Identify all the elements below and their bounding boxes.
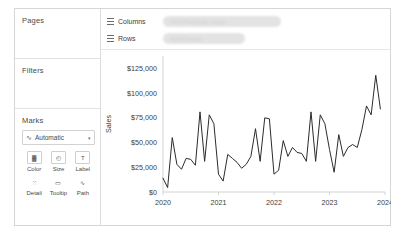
y-tick-label: $25,000	[131, 163, 157, 172]
marks-sidebar: Pages Filters Marks ∿ Automatic ▾ ▓ Colo…	[15, 9, 101, 225]
pages-shelf[interactable]: Pages	[15, 9, 100, 59]
grid-icon	[107, 35, 114, 42]
tooltip-icon: ▭	[52, 177, 65, 188]
y-axis-title: Sales	[104, 115, 113, 133]
path-icon: ∿	[76, 177, 89, 188]
x-tick-label: 2021	[211, 198, 227, 207]
rows-shelf-label: Rows	[118, 35, 163, 42]
sales-line-chart[interactable]: $0$25,000$50,000$75,000$100,000$125,000S…	[101, 50, 391, 223]
x-tick-label: 2024	[377, 198, 391, 207]
marks-tooltip-label: Tooltip	[50, 190, 67, 196]
mark-type-dropdown[interactable]: ∿ Automatic ▾	[22, 130, 95, 145]
shelf-area: Columns MONTH(Order Date) Rows SUM(Sales…	[101, 9, 390, 50]
marks-color-button[interactable]: ▓ Color	[22, 151, 46, 172]
columns-shelf[interactable]: Columns MONTH(Order Date)	[107, 15, 390, 28]
y-tick-label: $100,000	[127, 89, 157, 98]
marks-detail-button[interactable]: ⁙ Detail	[22, 177, 46, 196]
marks-card-label: Marks	[22, 116, 100, 125]
marks-tooltip-button[interactable]: ▭ Tooltip	[46, 177, 70, 196]
grid-icon	[107, 18, 114, 25]
marks-label-button[interactable]: T Label	[71, 151, 95, 172]
marks-path-button[interactable]: ∿ Path	[71, 177, 95, 196]
y-tick-label: $125,000	[127, 64, 157, 73]
marks-size-button[interactable]: ◴ Size	[46, 151, 70, 172]
rows-pill[interactable]: SUM(Sales)	[163, 33, 245, 44]
mark-type-value: Automatic	[35, 134, 88, 141]
mark-property-buttons: ▓ Color ◴ Size T Label ⁙ Detail ▭	[22, 151, 95, 196]
y-tick-label: $0	[149, 188, 157, 197]
y-tick-label: $75,000	[131, 113, 157, 122]
columns-pill[interactable]: MONTH(Order Date)	[163, 16, 281, 27]
tableau-worksheet: Pages Filters Marks ∿ Automatic ▾ ▓ Colo…	[14, 8, 391, 226]
size-icon: ◴	[51, 151, 66, 164]
marks-label-label: Label	[75, 166, 90, 172]
columns-shelf-label: Columns	[118, 18, 163, 25]
marks-card: Marks ∿ Automatic ▾ ▓ Color ◴ Size T Lab…	[15, 109, 100, 225]
pages-shelf-label: Pages	[22, 16, 100, 25]
color-palette-icon: ▓	[27, 151, 42, 164]
rows-shelf[interactable]: Rows SUM(Sales)	[107, 32, 390, 45]
marks-path-label: Path	[77, 190, 89, 196]
filters-shelf[interactable]: Filters	[15, 59, 100, 109]
y-tick-label: $50,000	[131, 138, 157, 147]
worksheet-main: Columns MONTH(Order Date) Rows SUM(Sales…	[101, 9, 390, 225]
marks-detail-label: Detail	[26, 190, 41, 196]
x-tick-label: 2020	[155, 198, 171, 207]
line-mark-icon: ∿	[26, 134, 32, 141]
x-tick-label: 2022	[266, 198, 282, 207]
marks-size-label: Size	[53, 166, 65, 172]
marks-color-label: Color	[27, 166, 41, 172]
sales-line-series[interactable]	[163, 75, 380, 187]
chart-viz-area[interactable]: $0$25,000$50,000$75,000$100,000$125,000S…	[101, 50, 390, 225]
detail-icon: ⁙	[28, 177, 41, 188]
chevron-down-icon: ▾	[88, 135, 91, 141]
filters-shelf-label: Filters	[22, 66, 100, 75]
x-tick-label: 2023	[322, 198, 338, 207]
label-icon: T	[75, 151, 90, 164]
